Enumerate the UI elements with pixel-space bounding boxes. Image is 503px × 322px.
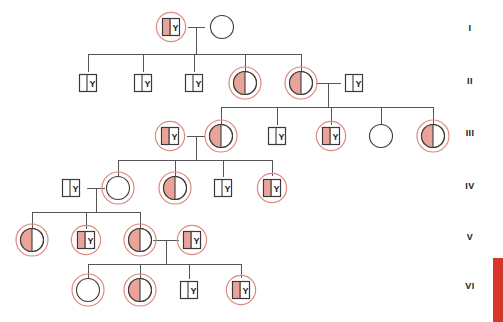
affected-half-fill bbox=[129, 279, 141, 302]
affected-half-fill bbox=[129, 229, 141, 252]
y-chromosome-icon: Y bbox=[355, 79, 361, 89]
generation-label-v: V bbox=[467, 232, 473, 242]
y-chromosome-icon: Y bbox=[273, 184, 279, 194]
individual-IV-1[interactable]: Y bbox=[63, 180, 80, 197]
female-symbol bbox=[370, 125, 393, 148]
y-chromosome-icon: Y bbox=[242, 286, 248, 296]
y-chromosome-icon: Y bbox=[332, 132, 338, 142]
affected-half-fill bbox=[21, 229, 33, 252]
y-chromosome-icon: Y bbox=[87, 236, 93, 246]
individual-VI-4[interactable]: Y bbox=[226, 275, 255, 304]
individual-V-2[interactable]: Y bbox=[71, 225, 100, 254]
individual-II-3[interactable]: Y bbox=[186, 75, 203, 92]
individual-III-1[interactable]: Y bbox=[155, 121, 184, 150]
affected-half-fill bbox=[234, 72, 245, 95]
individual-VI-3[interactable]: Y bbox=[181, 282, 198, 299]
affected-half-fill bbox=[210, 125, 222, 148]
generation-label-iv: IV bbox=[465, 181, 474, 191]
individual-I-1[interactable]: Y bbox=[156, 12, 185, 41]
individual-IV-5[interactable]: Y bbox=[257, 173, 286, 202]
individual-V-1[interactable] bbox=[16, 224, 48, 256]
page-edge-bar bbox=[493, 258, 503, 322]
pedigree-diagram: YYYYYYYYYYYYYYY IIIIIIIVVVI bbox=[0, 0, 503, 322]
y-chromosome-icon: Y bbox=[89, 79, 95, 89]
generation-label-vi: VI bbox=[465, 281, 474, 291]
y-chromosome-icon: Y bbox=[72, 184, 78, 194]
individual-III-5[interactable] bbox=[370, 125, 393, 148]
individual-III-2[interactable] bbox=[205, 120, 237, 152]
individual-V-3[interactable] bbox=[124, 224, 156, 256]
individual-II-5[interactable] bbox=[285, 67, 317, 99]
individual-II-4[interactable] bbox=[229, 67, 261, 99]
y-chromosome-icon: Y bbox=[224, 184, 230, 194]
individual-II-6[interactable]: Y bbox=[346, 75, 363, 92]
y-chromosome-icon: Y bbox=[172, 23, 178, 33]
y-chromosome-icon: Y bbox=[144, 79, 150, 89]
individual-IV-2[interactable] bbox=[102, 172, 134, 204]
affected-half-fill bbox=[164, 177, 176, 200]
affected-half-fill bbox=[290, 72, 301, 95]
y-chromosome-icon: Y bbox=[195, 79, 201, 89]
generation-label-iii: III bbox=[466, 128, 475, 138]
individual-VI-2[interactable] bbox=[124, 274, 156, 306]
y-chromosome-icon: Y bbox=[278, 132, 284, 142]
pedigree-chart-figure: YYYYYYYYYYYYYYY IIIIIIIVVVI bbox=[0, 0, 503, 322]
female-symbol bbox=[77, 279, 100, 302]
female-symbol bbox=[107, 177, 130, 200]
individual-III-6[interactable] bbox=[417, 120, 449, 152]
generation-labels-group: IIIIIIIVVVI bbox=[465, 23, 474, 291]
female-symbol bbox=[211, 16, 234, 39]
individual-II-1[interactable]: Y bbox=[80, 75, 97, 92]
individual-V-4[interactable]: Y bbox=[177, 225, 206, 254]
y-chromosome-icon: Y bbox=[171, 132, 177, 142]
affected-half-fill bbox=[422, 125, 433, 148]
individual-II-2[interactable]: Y bbox=[135, 75, 152, 92]
individual-III-3[interactable]: Y bbox=[269, 128, 286, 145]
individual-III-4[interactable]: Y bbox=[316, 121, 345, 150]
individual-IV-4[interactable]: Y bbox=[215, 180, 232, 197]
y-chromosome-icon: Y bbox=[190, 286, 196, 296]
generation-label-ii: II bbox=[467, 76, 473, 86]
individual-IV-3[interactable] bbox=[159, 172, 191, 204]
individual-symbols-group: YYYYYYYYYYYYYYY bbox=[16, 12, 449, 306]
y-chromosome-icon: Y bbox=[193, 236, 199, 246]
individual-VI-1[interactable] bbox=[72, 274, 104, 306]
individual-I-2[interactable] bbox=[211, 16, 234, 39]
generation-label-i: I bbox=[469, 23, 472, 33]
